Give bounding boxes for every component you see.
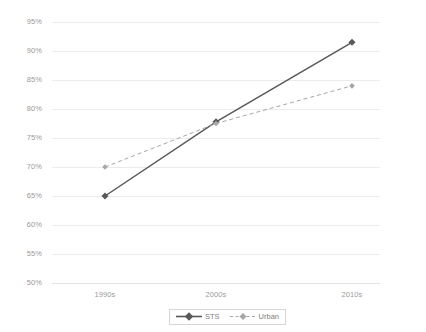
- chart-container: Republican vote 95% 90% 85% 80% 75% 70% …: [0, 0, 426, 332]
- y-axis-tick-label: 80%: [2, 105, 42, 113]
- legend-label-sts: STS: [205, 313, 220, 321]
- legend-swatch-sts-icon: [176, 312, 202, 321]
- y-axis-tick-label: 95%: [2, 18, 42, 26]
- y-axis-tick-label: 75%: [2, 134, 42, 142]
- chart-legend: STS Urban: [169, 309, 286, 325]
- legend-label-urban: Urban: [259, 313, 279, 321]
- x-axis-line: [52, 283, 380, 284]
- data-point-sts[interactable]: [348, 39, 355, 46]
- y-axis-tick-label: 55%: [2, 250, 42, 258]
- legend-swatch-urban-icon: [230, 312, 256, 321]
- series-line-sts: [105, 42, 352, 196]
- x-axis-tick-label: 1990s: [70, 291, 140, 299]
- series-layer: [52, 22, 380, 283]
- y-axis-tick-label: 50%: [2, 279, 42, 287]
- data-point-urban[interactable]: [349, 83, 355, 89]
- legend-item-sts[interactable]: STS: [176, 312, 220, 321]
- x-axis-tick-label: 2010s: [317, 291, 387, 299]
- y-axis-tick-label: 60%: [2, 221, 42, 229]
- data-point-urban[interactable]: [102, 164, 108, 170]
- y-axis-tick-label: 70%: [2, 163, 42, 171]
- x-axis-tick-label: 2000s: [181, 291, 251, 299]
- series-line-urban: [105, 86, 352, 167]
- legend-item-urban[interactable]: Urban: [230, 312, 279, 321]
- y-axis-tick-label: 85%: [2, 76, 42, 84]
- y-axis-tick-label: 90%: [2, 47, 42, 55]
- y-axis-tick-label: 65%: [2, 192, 42, 200]
